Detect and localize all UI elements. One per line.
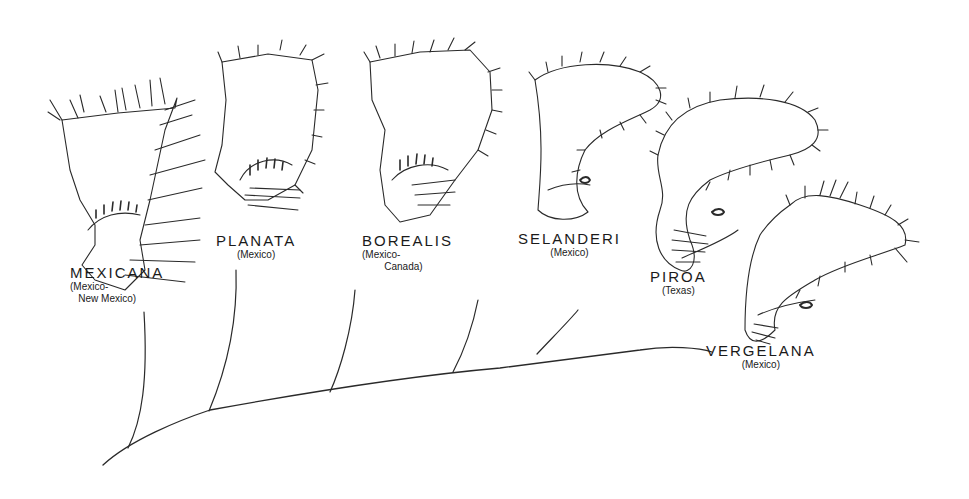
specimen-borealis [364,38,502,222]
figure-canvas: MEXICANA (Mexico- New Mexico) PLANATA (M… [0,0,969,499]
branch-mexicana [128,312,145,448]
taxon-range: (Mexico) [518,247,621,259]
taxon-label-borealis: BOREALIS (Mexico- Canada) [362,232,453,272]
taxon-name: BOREALIS [362,232,453,249]
branch-borealis [330,290,355,392]
specimen-selanderi [529,52,666,219]
taxon-name: VERGELANA [706,342,816,359]
taxon-label-mexicana: MEXICANA (Mexico- New Mexico) [70,264,164,304]
taxon-range: (Texas) [650,285,707,297]
specimen-planata [215,40,328,210]
taxon-name: PIROA [650,268,707,285]
taxon-name: MEXICANA [70,264,164,281]
tree-trunk [103,347,712,465]
branch-piroa [537,310,578,354]
taxon-label-vergelana: VERGELANA (Mexico) [706,342,816,371]
taxon-range: (Mexico- Canada) [362,249,453,272]
specimen-piroa [650,85,828,271]
tree-and-drawings [0,0,969,499]
specimen-vergelana [745,180,919,344]
taxon-name: SELANDERI [518,230,621,247]
taxon-label-planata: PLANATA (Mexico) [216,232,296,261]
branch-selanderi [453,300,478,372]
taxon-range: (Mexico) [706,359,816,371]
taxon-range: (Mexico- New Mexico) [70,281,164,304]
taxon-name: PLANATA [216,232,296,249]
taxon-range: (Mexico) [216,249,296,261]
taxon-label-piroa: PIROA (Texas) [650,268,707,297]
branch-planata [209,270,236,411]
specimen-mexicana [48,78,205,290]
taxon-label-selanderi: SELANDERI (Mexico) [518,230,621,259]
